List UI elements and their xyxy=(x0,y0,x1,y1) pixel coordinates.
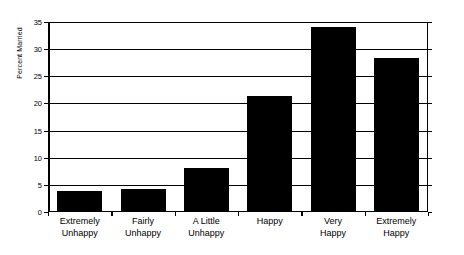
x-axis-label: Happy xyxy=(238,216,301,228)
y-axis-tick-right xyxy=(428,49,432,50)
bar xyxy=(311,27,356,212)
y-axis-tick-right xyxy=(428,103,432,104)
bar xyxy=(57,191,102,212)
x-axis-label: ExtremelyHappy xyxy=(365,216,428,239)
y-axis-tick-label: 0 xyxy=(38,208,42,217)
x-axis-labels: ExtremelyUnhappyFairlyUnhappyA LittleUnh… xyxy=(48,216,428,252)
y-axis-tick-right xyxy=(428,22,432,23)
y-axis-tick-label: 5 xyxy=(38,180,42,189)
x-axis-label: A LittleUnhappy xyxy=(175,216,238,239)
y-axis-tick-label: 30 xyxy=(34,45,42,54)
bar xyxy=(121,189,166,212)
x-axis-label: ExtremelyUnhappy xyxy=(48,216,111,239)
x-axis-label: VeryHappy xyxy=(301,216,364,239)
y-axis-tick-label: 35 xyxy=(34,18,42,27)
x-axis-tick xyxy=(428,212,429,216)
y-axis-tick-right xyxy=(428,131,432,132)
x-axis-label: FairlyUnhappy xyxy=(111,216,174,239)
y-axis-tick-right xyxy=(428,185,432,186)
bar xyxy=(247,96,292,212)
y-axis-tick-right xyxy=(428,76,432,77)
y-axis-tick-label: 25 xyxy=(34,72,42,81)
y-axis-tick-label: 20 xyxy=(34,99,42,108)
plot-area: 05101520253035 xyxy=(48,22,428,212)
bar xyxy=(374,58,419,212)
bars-group xyxy=(48,22,428,212)
y-axis-title: Percent Married xyxy=(16,8,23,98)
bar-chart: Percent Married 05101520253035 Extremely… xyxy=(0,0,464,255)
bar xyxy=(184,168,229,212)
y-axis-tick-label: 10 xyxy=(34,153,42,162)
y-axis-tick-right xyxy=(428,158,432,159)
y-axis-tick-label: 15 xyxy=(34,126,42,135)
